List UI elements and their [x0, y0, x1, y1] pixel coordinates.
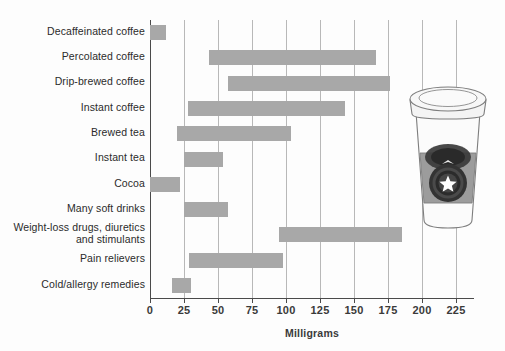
category-label-line: and stimulants	[0, 234, 145, 246]
x-tick-label-225: 225	[447, 304, 466, 316]
category-label-line: Pain relievers	[0, 253, 145, 265]
category-label-line: Weight-loss drugs, diuretics	[0, 222, 145, 234]
y-axis-line	[150, 20, 151, 298]
bar-1	[209, 50, 376, 65]
x-tick-0	[150, 298, 151, 303]
category-label-line: Cold/allergy remedies	[0, 279, 145, 291]
x-tick-175	[388, 298, 389, 303]
category-label-10: Cold/allergy remedies	[0, 279, 145, 291]
coffee-cup-illustration	[398, 78, 498, 233]
gridline-225	[456, 20, 457, 298]
bar-6	[150, 177, 180, 192]
x-tick-200	[422, 298, 423, 303]
category-label-line: Instant coffee	[0, 102, 145, 114]
x-axis-title: Milligrams	[150, 327, 474, 339]
x-tick-label-50: 50	[212, 304, 225, 316]
bar-8	[279, 227, 402, 242]
caffeine-range-chart: 0255075100125150175200225 Decaffeinated …	[0, 0, 505, 351]
category-label-2: Drip-brewed coffee	[0, 76, 145, 88]
category-label-line: Decaffeinated coffee	[0, 26, 145, 38]
category-label-line: Drip-brewed coffee	[0, 76, 145, 88]
category-label-7: Many soft drinks	[0, 203, 145, 215]
x-tick-label-0: 0	[147, 304, 153, 316]
x-tick-label-25: 25	[178, 304, 191, 316]
x-tick-225	[456, 298, 457, 303]
x-tick-125	[320, 298, 321, 303]
x-tick-75	[252, 298, 253, 303]
category-label-6: Cocoa	[0, 178, 145, 190]
category-label-0: Decaffeinated coffee	[0, 26, 145, 38]
x-tick-100	[286, 298, 287, 303]
category-label-line: Brewed tea	[0, 127, 145, 139]
category-label-line: Instant tea	[0, 152, 145, 164]
bar-4	[177, 126, 291, 141]
category-label-3: Instant coffee	[0, 102, 145, 114]
x-tick-150	[354, 298, 355, 303]
bar-2	[228, 76, 390, 91]
x-tick-label-100: 100	[277, 304, 296, 316]
bar-7	[184, 202, 228, 217]
x-tick-50	[218, 298, 219, 303]
category-label-line: Percolated coffee	[0, 51, 145, 63]
x-axis-line	[150, 298, 474, 299]
category-label-5: Instant tea	[0, 152, 145, 164]
bar-3	[188, 101, 345, 116]
bar-5	[184, 152, 223, 167]
x-tick-25	[184, 298, 185, 303]
bar-10	[172, 278, 191, 293]
gridline-175	[388, 20, 389, 298]
category-label-9: Pain relievers	[0, 253, 145, 265]
category-label-4: Brewed tea	[0, 127, 145, 139]
x-tick-label-175: 175	[379, 304, 398, 316]
x-tick-label-75: 75	[246, 304, 259, 316]
x-tick-label-150: 150	[345, 304, 364, 316]
category-label-line: Cocoa	[0, 178, 145, 190]
x-tick-label-125: 125	[311, 304, 330, 316]
category-label-8: Weight-loss drugs, diureticsand stimulan…	[0, 222, 145, 245]
category-label-line: Many soft drinks	[0, 203, 145, 215]
x-tick-label-200: 200	[413, 304, 432, 316]
bar-0	[150, 25, 166, 40]
gridline-200	[422, 20, 423, 298]
category-label-1: Percolated coffee	[0, 51, 145, 63]
bar-9	[189, 253, 283, 268]
